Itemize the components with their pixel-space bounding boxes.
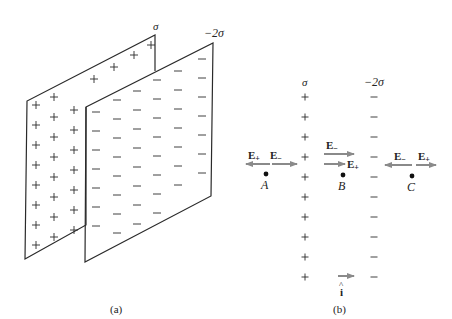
e-minus-label-a: E− [270, 149, 282, 163]
left-sheet-label: σ [302, 76, 308, 88]
unit-vector-symbol: i [340, 286, 343, 298]
figure-canvas: σ −2σ (a) σ −2σ E+ E− A E− [0, 0, 452, 319]
point-a-group: E+ E− A [246, 149, 297, 192]
plus-sign [302, 134, 309, 141]
e-plus-label-b: E+ [347, 158, 359, 172]
left-sheet-plus-signs [302, 94, 309, 281]
unit-vector-i: ^ i [338, 276, 354, 298]
figure-svg: σ −2σ (a) σ −2σ E+ E− A E− [0, 0, 452, 319]
point-b-label: B [338, 179, 346, 193]
point-b-group: E− E+ B [324, 139, 359, 193]
plus-sign [302, 214, 309, 221]
plus-sign [302, 194, 309, 201]
point-c-group: E− E+ C [385, 150, 436, 194]
plus-sign [302, 114, 309, 121]
point-a-dot [264, 172, 269, 177]
e-minus-label-b: E− [326, 139, 338, 153]
e-plus-label-c: E+ [418, 150, 430, 164]
panel-b: σ −2σ E+ E− A E− E+ B [246, 75, 436, 316]
caption-b: (b) [333, 303, 346, 316]
plus-sign [302, 254, 309, 261]
point-a-label: A [260, 178, 269, 192]
plus-sign [302, 234, 309, 241]
point-b-dot [341, 173, 346, 178]
panel-a: σ −2σ (a) [25, 20, 225, 316]
e-minus-label-c: E− [394, 150, 406, 164]
point-c-label: C [407, 180, 416, 194]
front-plane-label: σ [153, 20, 159, 32]
point-c-dot [410, 174, 415, 179]
plus-sign [302, 94, 309, 101]
plus-sign [302, 154, 309, 161]
caption-a: (a) [110, 303, 123, 316]
plus-sign [302, 174, 309, 181]
right-sheet-label: −2σ [364, 75, 385, 89]
e-plus-label-a: E+ [248, 149, 260, 163]
plus-sign [302, 274, 309, 281]
back-plane-label: −2σ [204, 26, 225, 40]
right-sheet-minus-signs [371, 97, 378, 277]
